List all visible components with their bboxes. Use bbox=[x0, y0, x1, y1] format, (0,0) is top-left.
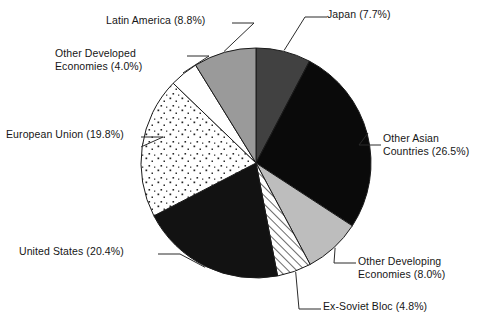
pie-label-latin-america: Latin America (8.8%) bbox=[106, 14, 205, 27]
pie-label-united-states: United States (20.4%) bbox=[19, 245, 124, 258]
leader-line-other-developing-economies bbox=[334, 248, 356, 263]
pie-label-japan: Japan (7.7%) bbox=[327, 8, 391, 21]
pie-label-ex-soviet-bloc: Ex-Soviet Bloc (4.8%) bbox=[323, 300, 427, 313]
leader-line-ex-soviet-bloc bbox=[296, 272, 321, 309]
pie-label-other-developed-economies: Other Developed Economies (4.0%) bbox=[55, 47, 142, 72]
leader-line-japan bbox=[284, 17, 327, 50]
pie-chart-figure: European Union (19.8%) United States (20… bbox=[0, 0, 485, 324]
pie-label-other-developing-economies: Other Developing Economies (8.0%) bbox=[358, 255, 445, 280]
leader-line-latin-america bbox=[224, 23, 254, 52]
pie-label-other-asian-countries: Other Asian Countries (26.5%) bbox=[383, 132, 469, 157]
pie-label-european-union: European Union (19.8%) bbox=[6, 128, 124, 141]
pie-slices-group bbox=[141, 48, 371, 278]
